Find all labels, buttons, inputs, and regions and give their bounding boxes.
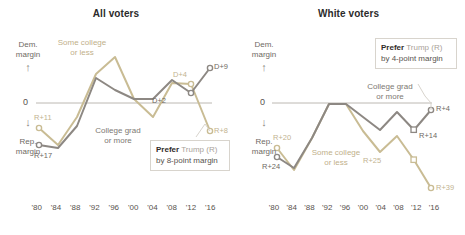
marker-dark-2012: [188, 90, 193, 95]
x-tick: '80: [265, 203, 283, 212]
callout-all-voters: Prefer Trump (R) by 8-point margin: [150, 140, 230, 171]
point-label-dark-1980: R+17: [34, 151, 52, 160]
x-tick: '12: [407, 203, 425, 212]
marker-light-2012: [188, 81, 193, 86]
x-tick: '92: [318, 203, 336, 212]
x-axis-ticks-white-voters: '80 '84 '88 '92 '96 '00 '04 '08 '12 '16: [265, 203, 443, 212]
up-arrow-icon: ↑: [244, 62, 284, 73]
x-tick: '84: [46, 203, 65, 212]
callout-white-voters: Prefer Trump (R) by 4-point margin: [375, 38, 457, 69]
x-axis-ticks-all-voters: '80 '84 '88 '92 '96 '00 '04 '08 '12 '16: [27, 203, 220, 212]
point-label-dark-1980: R+24: [262, 162, 280, 171]
marker-dark-2016: [207, 65, 212, 70]
callout-line-2: by 8-point margin: [156, 156, 224, 167]
series-line-some-college-or-less: [277, 104, 431, 188]
x-tick: '16: [201, 203, 220, 212]
x-tick: '08: [390, 203, 408, 212]
point-label-dark-2016: D+9: [214, 62, 228, 71]
x-tick: '04: [372, 203, 390, 212]
x-tick: '16: [425, 203, 443, 212]
charts-container: All voters Dem. margin ↑ 0 ↓ Rep. margin…: [0, 0, 465, 235]
callout-line-2: by 4-point margin: [381, 54, 451, 65]
panel-all-voters: All voters Dem. margin ↑ 0 ↓ Rep. margin…: [0, 0, 232, 235]
series-label-some-college-or-less: Some college or less: [48, 38, 116, 57]
point-label-light-2012: R+25: [363, 156, 381, 165]
x-tick: '80: [27, 203, 46, 212]
marker-light-2012: [411, 157, 416, 162]
point-label-light-2016: R+39: [436, 183, 454, 192]
callout-line-1: Prefer Trump (R): [381, 43, 451, 54]
zero-axis-label: 0: [260, 97, 265, 107]
x-tick: '04: [143, 203, 162, 212]
x-tick: '00: [354, 203, 372, 212]
callout-rest: Trump (R): [404, 43, 442, 52]
dem-margin-label: Dem. margin: [244, 40, 284, 59]
point-label-light-2016: R+8: [214, 126, 228, 135]
x-tick: '92: [85, 203, 104, 212]
point-label-light-2012: D+4: [173, 70, 187, 79]
point-label-light-1980: R+20: [273, 133, 291, 142]
x-tick: '00: [123, 203, 142, 212]
x-tick: '88: [66, 203, 85, 212]
x-tick: '12: [181, 203, 200, 212]
series-label-college-grad-or-more: College grad or more: [354, 82, 426, 101]
callout-bold: Prefer: [381, 43, 404, 52]
point-label-light-1980: R+11: [34, 113, 52, 122]
callout-line-1: Prefer Trump (R): [156, 145, 224, 156]
up-arrow-icon: ↑: [8, 62, 48, 73]
down-arrow-icon: ↓: [244, 117, 284, 128]
zero-axis-label: 0: [23, 97, 28, 107]
series-label-college-grad-or-more: College grad or more: [82, 126, 154, 145]
point-label-dark-2012: D+2: [152, 96, 166, 105]
callout-rest: Trump (R): [179, 145, 217, 154]
series-label-some-college-or-less: Some college or less: [302, 148, 370, 167]
marker-light-2016: [428, 185, 433, 190]
point-label-dark-2012: R+14: [419, 131, 437, 140]
x-tick: '88: [301, 203, 319, 212]
x-tick: '96: [104, 203, 123, 212]
x-tick: '84: [283, 203, 301, 212]
x-tick: '96: [336, 203, 354, 212]
point-label-dark-2016: R+4: [436, 104, 450, 113]
callout-bold: Prefer: [156, 145, 179, 154]
panel-white-voters: White voters Dem. margin ↑ 0 ↓ Rep. marg…: [232, 0, 465, 235]
dem-margin-label: Dem. margin: [8, 40, 48, 59]
marker-dark-2012: [411, 127, 416, 132]
x-tick: '08: [162, 203, 181, 212]
